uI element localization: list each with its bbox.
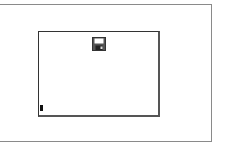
save-button[interactable] xyxy=(92,36,106,50)
text-cursor xyxy=(40,105,43,111)
floppy-disk-icon xyxy=(92,37,106,51)
